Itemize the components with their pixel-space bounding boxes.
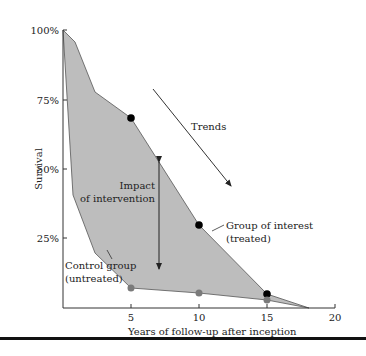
x-tick-5: 5 bbox=[128, 312, 134, 323]
control-point-5 bbox=[128, 285, 135, 292]
control-label-line1: Control group bbox=[65, 260, 136, 271]
x-tick-20: 20 bbox=[329, 312, 342, 323]
y-tick-25: 25% bbox=[37, 233, 59, 244]
bottom-rule bbox=[0, 337, 366, 340]
y-tick-100: 100% bbox=[30, 25, 59, 36]
y-tick-75: 75% bbox=[37, 95, 59, 106]
x-axis-label: Years of follow-up after inception bbox=[127, 326, 297, 337]
y-axis-label: Survival bbox=[33, 148, 44, 190]
control-point-10 bbox=[196, 290, 203, 297]
x-tick-15: 15 bbox=[261, 312, 274, 323]
control-point-15 bbox=[264, 297, 271, 304]
impact-label-line1: Impact bbox=[120, 180, 155, 191]
x-tick-10: 10 bbox=[193, 312, 206, 323]
trends-label: Trends bbox=[191, 121, 226, 132]
treated-leader bbox=[212, 225, 224, 231]
treated-point-10 bbox=[195, 221, 203, 229]
treated-label-line2: (treated) bbox=[226, 233, 271, 244]
treated-label-line1: Group of interest bbox=[226, 220, 313, 231]
treated-point-5 bbox=[127, 114, 135, 122]
impact-label-line2: of intervention bbox=[80, 193, 156, 204]
survival-chart: 100% 75% 50% 25% 5 10 15 20 Years of fol… bbox=[0, 0, 366, 356]
control-label-line2: (untreated) bbox=[65, 273, 123, 284]
